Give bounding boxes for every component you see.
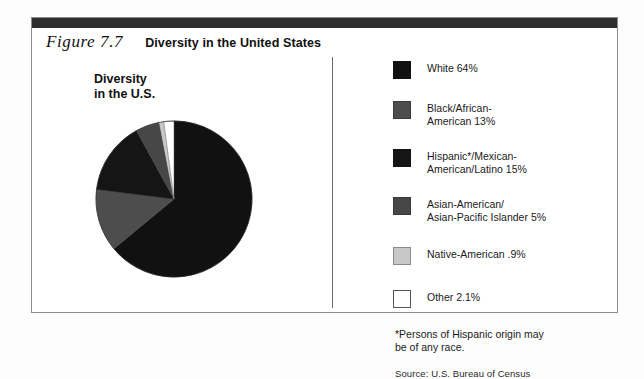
legend-label: White 64% [427, 61, 478, 75]
figure-source: Source: U.S. Bureau of Census [395, 368, 530, 379]
legend-item: Other 2.1% [393, 290, 480, 308]
figure-number: Figure 7.7 [46, 32, 123, 52]
figure-header-bar [32, 18, 617, 28]
legend-item: Native-American .9% [393, 247, 526, 265]
legend-item: Black/African- American 13% [393, 101, 495, 127]
figure-footnote: *Persons of Hispanic origin may be of an… [395, 328, 544, 353]
legend-item: White 64% [393, 61, 478, 79]
chart-panel: Diversity in the U.S. [32, 57, 332, 308]
legend-swatch [393, 197, 411, 215]
pie-chart [95, 120, 253, 278]
legend-swatch [393, 101, 411, 119]
pie-slice-group [96, 121, 252, 277]
figure-frame: Figure 7.7 Diversity in the United State… [31, 17, 618, 313]
legend-swatch [393, 290, 411, 308]
legend-label: Other 2.1% [427, 290, 480, 304]
chart-title: Diversity in the U.S. [94, 72, 155, 102]
legend-label: Hispanic*/Mexican- American/Latino 15% [427, 149, 527, 175]
legend-item: Hispanic*/Mexican- American/Latino 15% [393, 149, 527, 175]
legend-swatch [393, 247, 411, 265]
legend-panel: White 64%Black/African- American 13%Hisp… [333, 57, 619, 308]
legend-swatch [393, 61, 411, 79]
legend-label: Native-American .9% [427, 247, 526, 261]
legend-item: Asian-American/ Asian-Pacific Islander 5… [393, 197, 546, 223]
legend-label: Black/African- American 13% [427, 101, 495, 127]
pie-chart-svg [95, 120, 253, 278]
legend-label: Asian-American/ Asian-Pacific Islander 5… [427, 197, 546, 223]
legend-swatch [393, 149, 411, 167]
figure-title: Diversity in the United States [145, 36, 321, 50]
figure-caption: Figure 7.7 Diversity in the United State… [46, 32, 321, 54]
